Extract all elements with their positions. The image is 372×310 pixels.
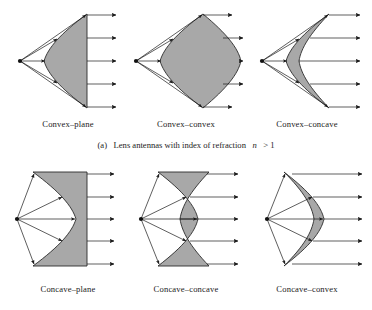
exit-rays-concave-plane [87,174,114,264]
lens-body-convex-convex [160,14,241,108]
source-point-concave-concave [139,217,143,221]
lens-label-convex-convex: Convex–convex [126,119,246,129]
lens-diagram-convex-plane [18,14,116,108]
lens-label-concave-convex: Concave–convex [246,284,368,294]
lens-label-convex-plane: Convex–plane [8,119,128,129]
caption-part-text: Lens antennas with index of refraction [114,140,246,150]
figure-caption-part-a: (a) Lens antennas with index of refracti… [0,140,372,150]
lens-label-convex-concave: Convex–concave [246,119,368,129]
lens-antenna-figure [0,0,372,310]
lens-diagram-concave-convex [265,172,362,266]
lens-label-concave-plane: Concave–plane [8,284,128,294]
source-point-convex-concave [260,59,264,63]
caption-part-label: (a) [98,140,108,150]
lens-diagram-convex-concave [260,14,360,108]
lens-diagram-convex-convex [134,14,243,108]
incident-rays-concave-convex [267,174,323,264]
lens-body-convex-plane [44,14,87,108]
caption-refraction-relation: > 1 [263,140,274,150]
lens-diagram-concave-plane [15,172,114,266]
caption-refraction-symbol: n [252,140,256,150]
source-point-concave-plane [15,217,19,221]
lens-diagram-concave-concave [139,172,238,266]
source-point-convex-plane [18,59,22,63]
exit-rays-convex-plane [87,15,116,107]
lens-label-concave-concave: Concave–concave [126,284,246,294]
source-point-concave-convex [265,217,269,221]
source-point-convex-convex [134,59,138,63]
